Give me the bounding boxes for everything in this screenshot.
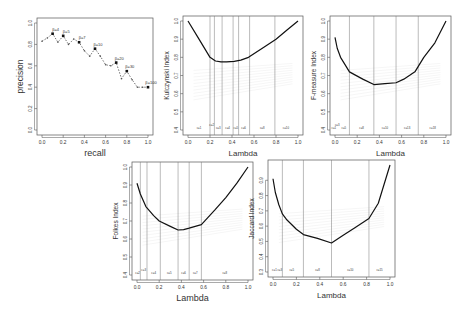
x-tick-label: 0.4 bbox=[316, 282, 323, 287]
y-axis: 0.30.40.50.60.70.80.9 bbox=[259, 177, 268, 275]
background-curve bbox=[143, 220, 243, 232]
beta-annotation: β=100 bbox=[145, 80, 157, 85]
y-tick-label: 0.9 bbox=[259, 177, 264, 184]
cluster-count-label: c=8 bbox=[315, 268, 320, 272]
cluster-count-label: c=3 bbox=[335, 123, 340, 127]
cluster-count-label: c=4 bbox=[225, 126, 230, 130]
x-tick-label: 0.8 bbox=[222, 285, 229, 290]
cluster-count-label: c=5 bbox=[234, 126, 239, 130]
background-curve bbox=[341, 82, 441, 97]
x-tick-label: 1.0 bbox=[295, 140, 302, 145]
y-axis-label: F-measure Index bbox=[310, 50, 317, 100]
y-axis: 0.40.50.60.70.80.91.0 bbox=[174, 17, 183, 133]
y-tick-label: 0.5 bbox=[321, 108, 326, 115]
cluster-count-label: c=8 bbox=[222, 271, 227, 275]
cluster-count-label: c=15 bbox=[376, 268, 383, 272]
background-curve bbox=[194, 82, 293, 97]
background-curve bbox=[194, 77, 293, 90]
highlight-marker bbox=[126, 70, 129, 73]
y-tick-label: 0.8 bbox=[174, 54, 179, 61]
y-axis: 0.40.50.60.70.80.91.0 bbox=[321, 17, 330, 133]
highlight-marker bbox=[115, 61, 118, 64]
background-curve bbox=[194, 73, 293, 84]
x-axis-label: Lambda bbox=[317, 291, 346, 300]
background-curve bbox=[341, 75, 441, 87]
x-tick-label: 0.2 bbox=[354, 140, 361, 145]
plot-frame bbox=[37, 18, 153, 135]
data-point bbox=[137, 86, 139, 88]
y-tick-label: 0.5 bbox=[174, 108, 179, 115]
data-point bbox=[100, 55, 102, 57]
x-tick-label: 0.0 bbox=[332, 140, 339, 145]
highlight-marker bbox=[94, 47, 97, 50]
x-axis-label: Lambda bbox=[229, 149, 258, 158]
y-tick-label: 0.6 bbox=[174, 90, 179, 97]
x-tick-label: 0.2 bbox=[207, 140, 214, 145]
x-tick-label: 0.0 bbox=[134, 285, 141, 290]
jaccard-index-chart: 0.00.20.40.60.81.00.30.40.50.60.70.80.9L… bbox=[248, 160, 395, 300]
data-point bbox=[131, 79, 133, 81]
folkes-index-chart: 0.00.20.40.60.81.00.40.50.60.70.80.91.0L… bbox=[112, 162, 253, 303]
beta-annotation: β=7 bbox=[79, 35, 87, 40]
cluster-count-label: c=5 bbox=[167, 271, 172, 275]
y-tick-label: 0.2 bbox=[28, 105, 33, 112]
x-axis-label: Lambda bbox=[376, 149, 405, 158]
y-tick-label: 1.0 bbox=[123, 163, 128, 170]
kulczynski-index-chart: 0.00.20.40.60.81.00.40.50.60.70.80.91.0L… bbox=[163, 16, 303, 158]
figure: 0.00.20.40.60.81.00.00.20.40.60.81.0reca… bbox=[0, 0, 471, 313]
precision-recall-chart: 0.00.20.40.60.81.00.00.20.40.60.81.0reca… bbox=[15, 18, 157, 158]
y-tick-label: 0.9 bbox=[321, 36, 326, 43]
y-tick-label: 0.9 bbox=[174, 36, 179, 43]
data-point bbox=[89, 55, 91, 57]
cluster-count-label: c=6 bbox=[181, 271, 186, 275]
y-tick-label: 1.0 bbox=[321, 17, 326, 24]
cluster-count-label: c=10 bbox=[382, 126, 389, 130]
y-axis-label: precision bbox=[15, 59, 25, 93]
x-tick-label: 0.2 bbox=[293, 282, 300, 287]
x-tick-label: 0.4 bbox=[178, 285, 185, 290]
x-tick-label: 0.8 bbox=[363, 282, 370, 287]
y-tick-label: 0.6 bbox=[28, 62, 33, 69]
cluster-count-label: c=10 bbox=[347, 268, 354, 272]
highlight-marker bbox=[78, 41, 81, 44]
x-tick-label: 0.2 bbox=[156, 285, 163, 290]
y-tick-label: 0.6 bbox=[259, 223, 264, 230]
background-curve bbox=[194, 75, 293, 87]
highlight-marker bbox=[51, 32, 54, 35]
y-tick-label: 0.8 bbox=[123, 199, 128, 206]
x-axis-label: recall bbox=[84, 148, 106, 158]
x-axis: 0.00.20.40.60.81.0 bbox=[39, 135, 152, 145]
x-axis: 0.00.20.40.60.81.0 bbox=[332, 135, 450, 145]
y-tick-label: 0.8 bbox=[321, 54, 326, 61]
cluster-count-label: c=3 bbox=[216, 126, 221, 130]
background-curve bbox=[341, 73, 441, 84]
y-tick-label: 0.9 bbox=[123, 181, 128, 188]
y-axis-label: Kulczynski Index bbox=[163, 51, 171, 100]
x-axis: 0.00.20.40.60.81.0 bbox=[185, 135, 302, 145]
x-tick-label: 0.8 bbox=[420, 140, 427, 145]
y-tick-label: 0.3 bbox=[259, 268, 264, 275]
x-tick-label: 0.0 bbox=[185, 140, 192, 145]
beta-annotation: β=20 bbox=[115, 56, 125, 61]
highlight-marker bbox=[147, 86, 150, 89]
cluster-count-label: c=13 bbox=[404, 126, 411, 130]
cluster-count-label: c=10 bbox=[283, 126, 290, 130]
y-axis: 0.40.50.60.70.80.91.0 bbox=[123, 163, 132, 278]
x-axis: 0.00.20.40.60.81.0 bbox=[270, 277, 394, 287]
x-tick-label: 0.8 bbox=[273, 140, 280, 145]
beta-annotation: β=5 bbox=[63, 29, 71, 34]
y-tick-label: 0.8 bbox=[28, 41, 33, 48]
y-tick-label: 0.4 bbox=[259, 253, 264, 260]
x-tick-label: 0.4 bbox=[81, 140, 88, 145]
cluster-count-label: c=5 bbox=[289, 268, 294, 272]
y-tick-label: 0.7 bbox=[174, 72, 179, 79]
x-tick-label: 1.0 bbox=[443, 140, 450, 145]
x-tick-label: 0.6 bbox=[340, 282, 347, 287]
y-tick-label: 0.7 bbox=[259, 207, 264, 214]
y-tick-label: 0.6 bbox=[321, 90, 326, 97]
x-tick-label: 1.0 bbox=[245, 285, 252, 290]
x-tick-label: 0.2 bbox=[60, 140, 67, 145]
y-axis-label: Jaccard Index bbox=[248, 198, 255, 239]
y-tick-label: 0.4 bbox=[174, 126, 179, 133]
cluster-count-label: c=18 bbox=[430, 126, 437, 130]
